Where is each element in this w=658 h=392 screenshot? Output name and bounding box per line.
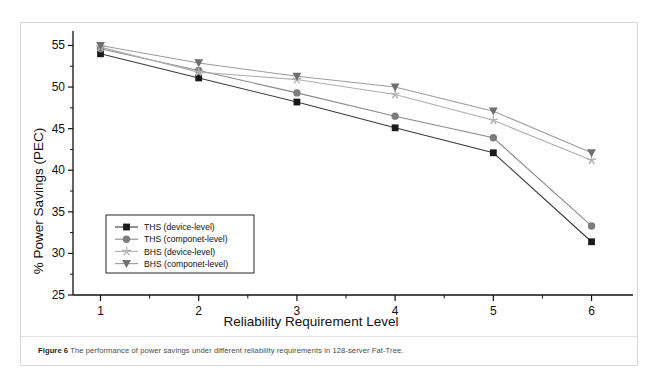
chart-plot-area: 25303540455055 123456 THS (device-level)… (21, 23, 637, 333)
x-tick-label: 6 (588, 304, 595, 318)
legend-marker (123, 236, 130, 243)
figure-caption-label: Figure 6 (38, 346, 68, 355)
legend-marker (123, 224, 130, 231)
data-point (489, 116, 498, 124)
series-4 (96, 42, 596, 157)
data-point (490, 134, 497, 141)
x-tick-label: 2 (195, 304, 202, 318)
power-savings-line-chart: 25303540455055 123456 THS (device-level)… (21, 23, 637, 333)
data-point (391, 112, 398, 119)
y-tick-label: 45 (52, 122, 66, 136)
data-point (392, 124, 399, 131)
series-line (100, 49, 591, 226)
data-point (588, 238, 595, 245)
caption-divider (21, 336, 637, 337)
legend-label: THS (device-level) (144, 222, 215, 232)
data-point (293, 89, 300, 96)
y-tick-label: 30 (52, 246, 66, 260)
legend-label: BHS (device-level) (144, 247, 215, 257)
data-point (489, 108, 498, 116)
data-point (588, 222, 595, 229)
y-tick-label: 55 (52, 38, 66, 52)
legend-label: THS (componet-level) (144, 234, 228, 244)
figure-caption: Figure 6 The performance of power saving… (38, 345, 618, 356)
y-tick-label: 35 (52, 205, 66, 219)
data-point (294, 99, 301, 106)
y-axis-tick-labels: 25303540455055 (52, 38, 66, 302)
x-tick-label: 5 (490, 304, 497, 318)
series-line (100, 47, 591, 160)
data-point (490, 149, 497, 156)
figure-card: 25303540455055 123456 THS (device-level)… (20, 22, 638, 366)
y-tick-label: 25 (52, 288, 66, 302)
series-2 (97, 45, 595, 230)
series-3 (96, 43, 596, 164)
y-axis-title: % Power Savings (PEC) (31, 128, 46, 274)
legend-label: BHS (componet-level) (144, 259, 228, 269)
chart-legend: THS (device-level)THS (componet-level)BH… (106, 215, 254, 273)
data-point (587, 149, 596, 157)
y-tick-label: 50 (52, 80, 66, 94)
series-line (100, 45, 591, 152)
x-tick-label: 1 (97, 304, 104, 318)
y-tick-label: 40 (52, 163, 66, 177)
x-axis-title: Reliability Requirement Level (224, 314, 399, 329)
figure-caption-text: The performance of power savings under d… (70, 346, 403, 355)
